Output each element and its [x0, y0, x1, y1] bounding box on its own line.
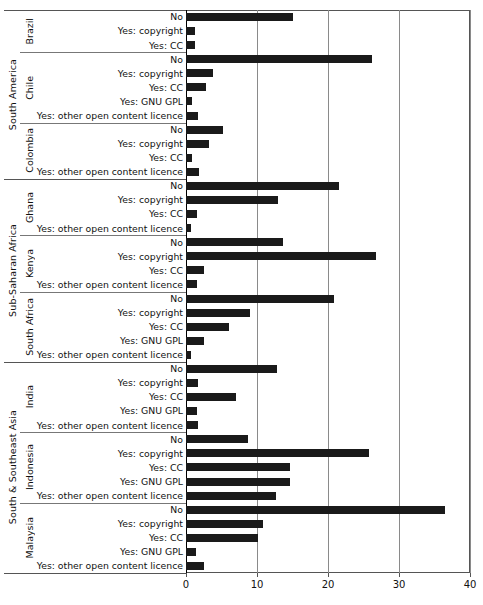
category-label: Yes: CC	[44, 39, 186, 51]
bar	[186, 421, 198, 429]
country-separator	[20, 235, 186, 236]
bar	[186, 126, 223, 134]
category-label: Yes: CC	[44, 321, 186, 333]
category-label: No	[44, 11, 186, 23]
country-label-brazil: Brazil	[20, 10, 38, 52]
region-label-south-southeast-asia: South & Southeast Asia	[4, 362, 20, 573]
x-tick-0	[186, 573, 187, 577]
country-label-text: Colombia	[24, 128, 35, 173]
bar	[186, 27, 195, 35]
x-tick-label-0: 0	[166, 579, 206, 590]
bar	[186, 280, 197, 288]
category-label: Yes: other open content licence	[44, 166, 186, 178]
category-label: Yes: other open content licence	[44, 419, 186, 431]
bar	[186, 309, 250, 317]
bar	[186, 506, 445, 514]
category-label: Yes: CC	[44, 461, 186, 473]
bar	[186, 449, 369, 457]
category-label: Yes: CC	[44, 81, 186, 93]
category-label: No	[44, 293, 186, 305]
bar	[186, 97, 192, 105]
country-label-text: Chile	[24, 76, 35, 100]
region-separator	[4, 179, 186, 180]
country-separator	[20, 432, 186, 433]
bar	[186, 252, 376, 260]
country-label-ghana: Ghana	[20, 179, 38, 235]
bar	[186, 83, 206, 91]
bar	[186, 435, 248, 443]
category-label: Yes: other open content licence	[44, 560, 186, 572]
x-tick-40	[470, 573, 471, 577]
country-label-chile: Chile	[20, 52, 38, 122]
country-label-text: South Africa	[24, 298, 35, 356]
region-label-sub-saharan-africa: Sub-Saharan Africa	[4, 179, 20, 362]
category-label-column: NoYes: copyrightYes: CCNoYes: copyrightY…	[40, 0, 186, 605]
gridline-20	[328, 10, 329, 573]
country-separator	[20, 52, 186, 53]
region-label-text: South America	[7, 59, 18, 130]
country-separator	[20, 123, 186, 124]
plot-area	[186, 10, 470, 573]
country-label-column: BrazilChileColombiaGhanaKenyaSouth Afric…	[20, 0, 38, 605]
bar	[186, 69, 213, 77]
bar	[186, 562, 204, 570]
bar	[186, 140, 209, 148]
category-label: Yes: copyright	[44, 447, 186, 459]
category-label: Yes: other open content licence	[44, 490, 186, 502]
country-label-malaysia: Malaysia	[20, 503, 38, 573]
bar	[186, 55, 372, 63]
category-label: Yes: copyright	[44, 518, 186, 530]
country-label-text: India	[24, 385, 35, 408]
bar	[186, 182, 339, 190]
category-label: No	[44, 504, 186, 516]
country-label-colombia: Colombia	[20, 123, 38, 179]
bar	[186, 393, 236, 401]
bar	[186, 238, 283, 246]
bar	[186, 379, 198, 387]
bar	[186, 478, 290, 486]
region-label-text: Sub-Saharan Africa	[7, 224, 18, 317]
horizontal-bar-chart: South AmericaSub-Saharan AfricaSouth & S…	[0, 0, 483, 605]
country-label-south-africa: South Africa	[20, 292, 38, 362]
country-label-kenya: Kenya	[20, 235, 38, 291]
x-tick-label-40: 40	[450, 579, 483, 590]
country-label-text: Ghana	[24, 192, 35, 223]
x-tick-label-20: 20	[308, 579, 348, 590]
gridline-40	[470, 10, 471, 573]
region-label-text: South & Southeast Asia	[7, 410, 18, 524]
bar	[186, 365, 277, 373]
category-label: No	[44, 124, 186, 136]
region-label-column: South AmericaSub-Saharan AfricaSouth & S…	[4, 0, 20, 605]
category-label: Yes: GNU GPL	[44, 335, 186, 347]
bar	[186, 224, 191, 232]
country-label-text: Brazil	[24, 18, 35, 45]
x-tick-10	[257, 573, 258, 577]
category-label: Yes: GNU GPL	[44, 476, 186, 488]
bar	[186, 196, 278, 204]
category-label: Yes: other open content licence	[44, 222, 186, 234]
category-label: No	[44, 363, 186, 375]
country-label-text: Indonesia	[24, 444, 35, 490]
category-label: Yes: CC	[44, 152, 186, 164]
country-separator	[20, 503, 186, 504]
category-label: Yes: CC	[44, 391, 186, 403]
category-label: Yes: CC	[44, 532, 186, 544]
region-label-south-america: South America	[4, 10, 20, 179]
category-label: Yes: copyright	[44, 25, 186, 37]
category-label: Yes: GNU GPL	[44, 405, 186, 417]
category-label: No	[44, 236, 186, 248]
region-separator	[4, 573, 186, 574]
bar	[186, 295, 334, 303]
category-label: Yes: copyright	[44, 138, 186, 150]
category-label: No	[44, 433, 186, 445]
x-tick-20	[328, 573, 329, 577]
bar	[186, 266, 204, 274]
country-label-text: Malaysia	[24, 517, 35, 559]
bar	[186, 112, 198, 120]
bar	[186, 520, 263, 528]
bar	[186, 463, 290, 471]
bar	[186, 351, 191, 359]
y-axis-line	[186, 10, 187, 573]
category-label: Yes: CC	[44, 264, 186, 276]
x-tick-label-10: 10	[237, 579, 277, 590]
